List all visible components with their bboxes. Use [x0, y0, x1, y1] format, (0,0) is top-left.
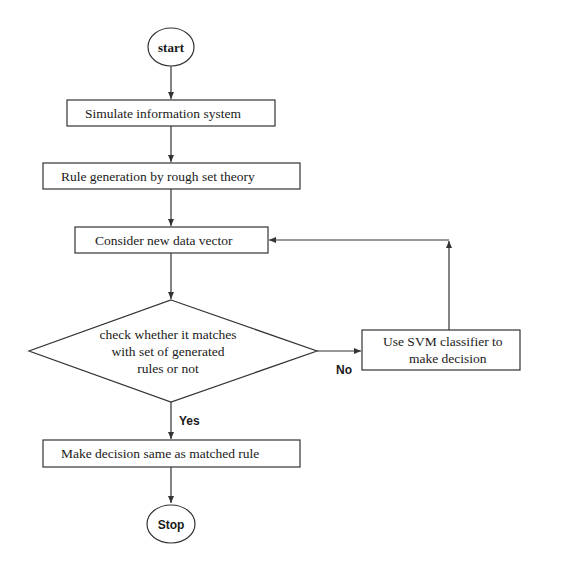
start-node: start: [148, 28, 194, 66]
check-decision-diamond: check whether it matches with set of gen…: [29, 300, 317, 402]
no-label: No: [336, 363, 352, 377]
simulate-label: Simulate information system: [85, 106, 241, 121]
check-label-line3: rules or not: [137, 361, 199, 376]
consider-label: Consider new data vector: [95, 233, 233, 248]
yes-label: Yes: [179, 414, 200, 428]
flowchart-canvas: start Simulate information system Rule g…: [0, 0, 565, 574]
rulegen-process-box: Rule generation by rough set theory: [43, 163, 300, 189]
stop-label: Stop: [158, 518, 185, 532]
decide-label: Make decision same as matched rule: [61, 446, 259, 461]
svm-process-box: Use SVM classifier to make decision: [362, 330, 520, 370]
consider-process-box: Consider new data vector: [75, 227, 268, 253]
stop-node: Stop: [147, 505, 195, 543]
svm-label-line2: make decision: [409, 351, 487, 366]
decide-process-box: Make decision same as matched rule: [43, 440, 300, 467]
check-label-line2: with set of generated: [112, 344, 225, 359]
start-label: start: [158, 40, 185, 55]
check-label-line1: check whether it matches: [100, 327, 237, 342]
svm-label-line1: Use SVM classifier to: [383, 334, 503, 349]
rulegen-label: Rule generation by rough set theory: [61, 169, 255, 184]
simulate-process-box: Simulate information system: [67, 100, 275, 126]
